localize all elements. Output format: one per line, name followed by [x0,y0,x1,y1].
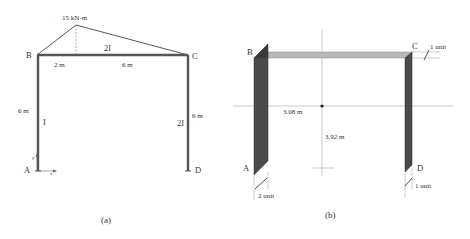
centroid-y-label: 3.92 m [325,133,345,141]
caption-b: (b) [325,210,336,220]
right-col-width-arrow [405,178,412,186]
centroid-point [320,104,323,107]
section-node-c-label: C [412,41,418,51]
panel-b-section [233,30,453,200]
left-column-stiffness-label: I [43,117,46,127]
panel-b-labels: B C A D 3.08 m 3.92 m 1 unit 2 unit 1 un… [243,41,446,220]
y-axis-label: y [32,155,35,160]
node-c-label: C [192,51,198,61]
right-column-stiffness-label: 2I [177,118,184,128]
beam-left-segment-label: 2 m [54,61,65,69]
beam-right-segment-label: 6 m [122,61,133,69]
section-node-d-label: D [417,163,423,173]
right-column-height-label: 6 m [192,112,203,120]
beam-width-label: 1 unit [430,43,446,51]
right-column-width-label: 1 unit [415,182,431,190]
panel-a-labels: 15 kN-m B C A D 2I 2 m 6 m 6 m I 6 m 2I … [18,14,203,225]
node-a-label: A [24,165,31,175]
beam-width-arrow [424,50,429,60]
panel-a-frame [35,25,191,173]
section-node-b-label: B [247,47,253,57]
left-column-width-label: 2 unit [258,192,274,200]
beam-stiffness-label: 2I [104,43,111,53]
left-col-width-arrow [255,178,267,189]
left-column-height-label: 6 m [18,107,29,115]
node-b-label: B [26,50,32,60]
x-arrow-head-icon [53,170,57,173]
section-node-a-label: A [243,163,250,173]
beam-bc-section [268,52,412,58]
column-cd-section [405,52,412,172]
moment-diagram [37,25,188,55]
column-ab-section [254,44,268,175]
centroid-x-label: 3.08 m [283,108,303,116]
node-d-label: D [195,165,201,175]
caption-a: (a) [101,215,111,225]
x-axis-label: x [50,171,53,176]
figure: 15 kN-m B C A D 2I 2 m 6 m 6 m I 6 m 2I … [0,0,470,239]
moment-label: 15 kN-m [62,14,88,22]
